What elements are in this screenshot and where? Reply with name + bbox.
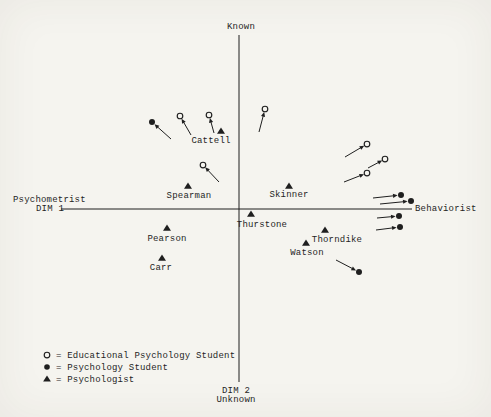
point-label-skinner: Skinner [269,190,308,200]
point-label-carr: Carr [150,263,172,273]
point-educational-psychology-student [262,106,268,112]
point-educational-psychology-student [382,156,388,162]
point-psychologist-watson [302,239,310,245]
point-label-thorndike: Thorndike [312,235,362,245]
drift-vector-line [208,170,219,182]
arrowhead-icon [261,112,265,117]
arrowhead-icon [391,215,396,219]
point-psychology-student [356,269,362,275]
arrowhead-icon [392,226,397,230]
legend-label-educational-psychology-student: = Educational Psychology Student [56,351,235,361]
point-educational-psychology-student [206,112,212,118]
point-psychology-student [408,198,414,204]
point-label-watson: Watson [290,248,324,258]
scanned-book-figure: Known Psychometrist DIM 1 Behaviorist DI… [0,0,491,417]
legend-open-circle-icon [44,352,50,358]
legend-triangle-icon [43,375,51,381]
point-psychologist-spearman [184,182,192,188]
legend: = Educational Psychology Student = Psych… [43,351,235,385]
legend-label-psychologist: = Psychologist [56,375,134,385]
drift-vector-line [345,147,361,157]
axis-label-known: Known [227,22,255,32]
point-label-cattell: Cattell [191,136,230,146]
point-psychology-student [398,192,404,198]
drift-vector-line [336,260,353,269]
drift-vector-line [344,175,361,182]
point-psychology-student [397,224,403,230]
mds-scatter-plot: Known Psychometrist DIM 1 Behaviorist DI… [0,0,491,417]
drift-vector-line [259,116,263,132]
axis-label-behaviorist: Behaviorist [415,204,477,214]
drift-vector-line [373,196,394,198]
arrowhead-icon [403,200,408,204]
point-psychology-student [396,213,402,219]
point-psychologist-carr [158,254,166,260]
point-educational-psychology-student [200,162,206,168]
point-psychology-student [149,119,155,125]
drift-vector-line [376,228,393,230]
point-educational-psychology-student [364,141,370,147]
legend-filled-circle-icon [44,364,50,370]
point-psychologist-thorndike [321,226,329,232]
drift-vector-line [183,122,191,135]
point-psychologist-cattell [217,127,225,133]
point-psychologist-skinner [285,182,293,188]
point-educational-psychology-student [364,170,370,176]
drift-vector-line [211,122,214,133]
axis-labels: Known Psychometrist DIM 1 Behaviorist DI… [13,22,477,405]
arrowhead-icon [393,194,398,198]
point-label-thurstone: Thurstone [237,220,287,230]
plot-content: CattellSpearmanSkinnerThurstonePearsonCa… [61,35,414,382]
legend-label-psychology-student: = Psychology Student [56,363,168,373]
drift-vector-line [380,202,404,204]
point-psychologist-thurstone [247,210,255,216]
drift-vector-line [368,162,379,168]
drift-vector-line [377,217,392,218]
arrowhead-icon [209,118,213,123]
point-educational-psychology-student [177,113,183,119]
point-psychologist-pearson [163,224,171,230]
point-label-pearson: Pearson [147,234,186,244]
axis-label-dim1: DIM 1 [36,204,64,214]
axis-label-unknown: Unknown [216,395,255,405]
drift-vector-line [157,127,171,139]
point-label-spearman: Spearman [167,191,212,201]
